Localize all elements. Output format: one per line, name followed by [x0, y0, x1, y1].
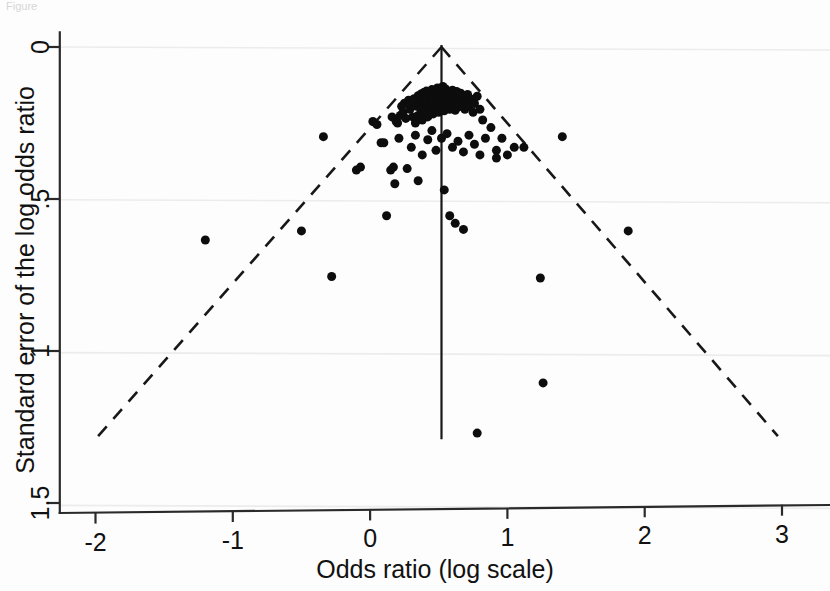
- x-tick-label: -1: [222, 526, 244, 554]
- datapoint: [427, 126, 436, 135]
- datapoint: [201, 236, 210, 245]
- datapoint: [497, 134, 506, 143]
- datapoint: [475, 150, 484, 159]
- datapoint: [510, 143, 519, 152]
- x-tick-label: 3: [775, 520, 789, 548]
- datapoint: [459, 147, 468, 156]
- datapoint: [356, 163, 365, 172]
- datapoint: [558, 132, 567, 141]
- datapoint: [470, 140, 479, 149]
- x-tick-label: 1: [500, 523, 514, 551]
- datapoint: [327, 272, 336, 281]
- datapoint: [475, 105, 484, 114]
- datapoint: [442, 129, 451, 138]
- datapoint: [394, 134, 403, 143]
- datapoint: [414, 176, 423, 185]
- y-tick-label: 0: [26, 40, 54, 54]
- datapoint: [390, 179, 399, 188]
- datapoint: [503, 150, 512, 159]
- x-tick-label: -2: [84, 528, 106, 556]
- datapoint: [379, 138, 388, 147]
- datapoint: [536, 274, 545, 283]
- datapoint: [440, 185, 449, 194]
- datapoint: [459, 225, 468, 234]
- datapoint: [403, 164, 412, 173]
- datapoint: [372, 120, 381, 129]
- datapoint: [297, 226, 306, 235]
- datapoint: [451, 219, 460, 228]
- datapoint: [539, 378, 548, 387]
- datapoint: [423, 135, 432, 144]
- funnel-plot-figure: -2-10123 0.511.5 Odds ratio (log scale) …: [0, 0, 830, 591]
- datapoint: [453, 137, 462, 146]
- datapoint: [382, 211, 391, 220]
- x-axis-title: Odds ratio (log scale): [316, 555, 554, 583]
- datapoint: [519, 143, 528, 152]
- y-axis-title: Standard error of the log odds ratio: [11, 86, 39, 474]
- datapoint: [624, 226, 633, 235]
- figure-caption-fragment: Figure: [6, 0, 37, 12]
- funnel-plot-svg: -2-10123 0.511.5 Odds ratio (log scale) …: [0, 0, 830, 591]
- datapoint: [464, 131, 473, 140]
- x-tick-label: 2: [638, 521, 652, 549]
- datapoint: [319, 132, 328, 141]
- datapoint: [481, 134, 490, 143]
- datapoint: [492, 153, 501, 162]
- datapoint: [432, 146, 441, 155]
- datapoint: [473, 92, 482, 101]
- datapoint: [473, 429, 482, 438]
- plot-background: [0, 0, 830, 591]
- datapoint: [411, 131, 420, 140]
- datapoint: [389, 163, 398, 172]
- datapoint: [486, 123, 495, 132]
- datapoint: [418, 150, 427, 159]
- y-tick-label: 1.5: [26, 486, 54, 521]
- datapoint: [445, 211, 454, 220]
- datapoint: [407, 143, 416, 152]
- x-tick-label: 0: [363, 524, 377, 552]
- datapoint: [478, 115, 487, 124]
